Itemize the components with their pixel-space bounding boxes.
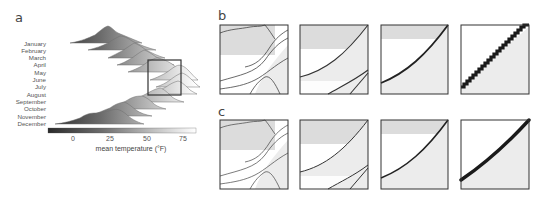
panel-c-views	[0, 0, 545, 201]
panel-c-view-1	[220, 120, 288, 189]
panel-c-view-3	[381, 120, 448, 189]
panel-c-view-2	[300, 120, 368, 189]
panel-c-view-4	[461, 120, 529, 189]
